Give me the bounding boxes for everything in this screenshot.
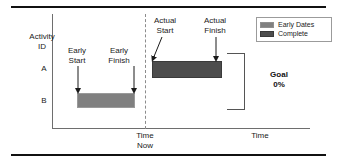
row-label-a: A: [35, 64, 53, 73]
legend: Early Dates Complete: [256, 17, 332, 42]
y-axis-title: Activity ID: [22, 32, 62, 51]
x-axis-line: [52, 128, 310, 129]
annotation-actual-start-label: Actual Start: [147, 16, 183, 35]
time-now-label: Time Now: [125, 131, 165, 150]
x-axis-title: Time: [240, 131, 280, 141]
bottom-rule: [11, 154, 326, 156]
bar-activity-a-complete[interactable]: [152, 61, 222, 78]
legend-item-early-dates[interactable]: Early Dates: [260, 21, 328, 29]
legend-swatch-early-dates-icon: [260, 22, 274, 28]
row-label-b: B: [35, 96, 53, 105]
bar-activity-b-early[interactable]: [77, 93, 135, 108]
annotation-early-start-label: Early Start: [58, 46, 96, 65]
legend-swatch-complete-icon: [260, 31, 274, 37]
legend-label-early-dates: Early Dates: [278, 21, 314, 29]
diagram-canvas: Activity ID A B Early Start Early Finish…: [0, 0, 338, 167]
goal-value: 0%: [273, 80, 285, 89]
goal-title: Goal: [270, 70, 288, 79]
time-now-dashed-line: [145, 14, 146, 129]
goal-bracket: [227, 53, 245, 110]
top-rule: [11, 6, 326, 8]
goal-block: Goal0%: [252, 70, 306, 90]
legend-label-complete: Complete: [278, 30, 308, 38]
annotation-early-finish-label: Early Finish: [100, 46, 138, 65]
legend-item-complete[interactable]: Complete: [260, 30, 328, 38]
annotation-actual-finish-label: Actual Finish: [196, 16, 234, 35]
